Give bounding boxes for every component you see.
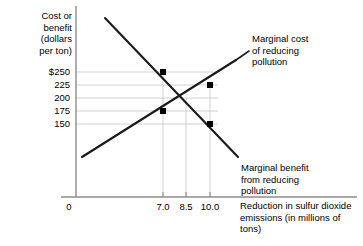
- marginal-benefit-curve: [105, 18, 238, 157]
- y-tick-label-250: $250: [30, 66, 70, 78]
- origin-label: 0: [62, 201, 76, 213]
- chart-figure: Cost or benefit (dollars per ton) $250 2…: [0, 0, 363, 246]
- y-tick-label-175: 175: [30, 105, 70, 117]
- marker-mb-10.0-150: [207, 121, 213, 127]
- y-tick-label-225: 225: [30, 79, 70, 91]
- x-tick-label-10.0: 10.0: [195, 201, 225, 213]
- marker-mc-10.0-225: [207, 82, 213, 88]
- mc-leader-line: [236, 51, 249, 60]
- y-tick-label-200: 200: [30, 92, 70, 104]
- marginal-benefit-annotation: Marginal benefit from reducing pollution: [241, 162, 309, 197]
- y-axis-title: Cost or benefit (dollars per ton): [4, 10, 72, 56]
- x-tick-marks: [163, 192, 210, 197]
- x-axis-title: Reduction in sulfur dioxide emissions (i…: [240, 200, 363, 235]
- marginal-cost-annotation: Marginal cost of reducing pollution: [252, 33, 309, 68]
- marker-mc-7.0-175: [160, 108, 166, 114]
- marker-mb-7.0-250: [160, 69, 166, 75]
- y-tick-label-150: 150: [30, 118, 70, 130]
